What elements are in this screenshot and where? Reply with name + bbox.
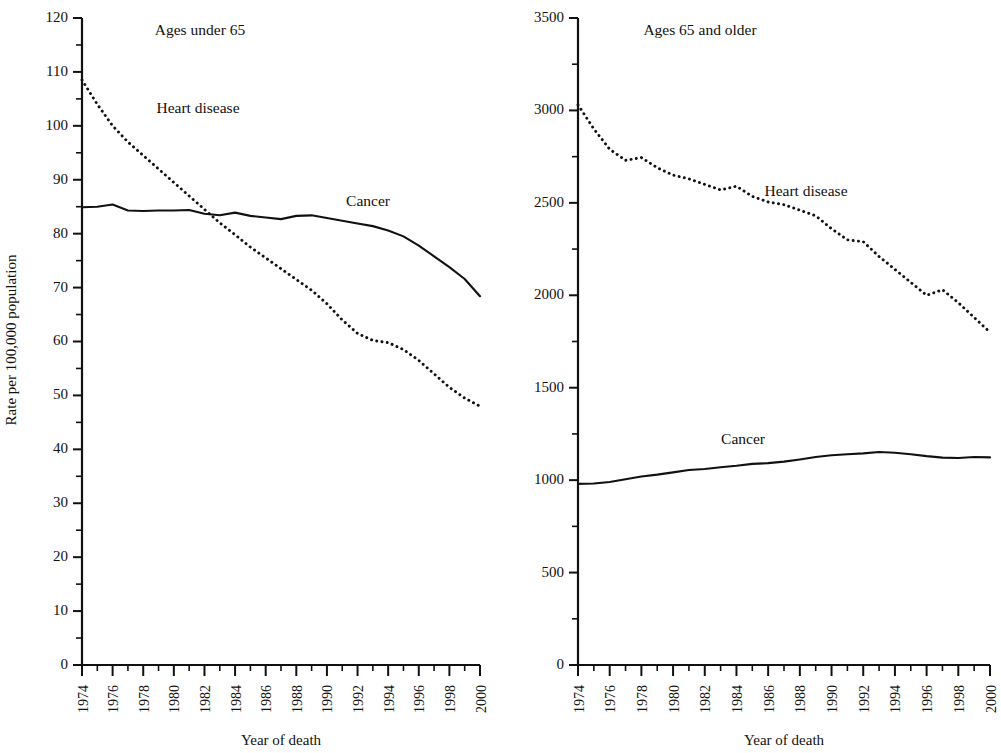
y-tick-label: 1000: [534, 471, 564, 487]
y-tick-label: 3500: [534, 9, 564, 25]
y-tick-label: 0: [61, 656, 69, 672]
series-label-heart-disease: Heart disease: [156, 99, 239, 116]
x-tick-label: 1990: [320, 685, 335, 713]
x-tick-label: 1992: [857, 685, 872, 713]
x-tick-label: 1990: [825, 685, 840, 713]
x-tick-label: 1982: [198, 685, 213, 713]
x-tick-label: 1986: [762, 685, 777, 713]
y-tick-label: 50: [53, 386, 68, 402]
x-tick-label: 1976: [603, 685, 618, 713]
y-tick-label: 2500: [534, 194, 564, 210]
series-line-heart-disease: [82, 80, 480, 406]
x-tick-label: 1988: [793, 685, 808, 713]
y-tick-label: 10: [53, 602, 68, 618]
panel-ages-65-and-older: 0500100015002000250030003500197419761978…: [490, 0, 978, 753]
x-axis-title: Year of death: [744, 732, 825, 748]
panel-title: Ages under 65: [155, 21, 246, 38]
x-tick-label: 1984: [229, 685, 244, 713]
x-tick-label: 1978: [137, 685, 152, 713]
x-tick-label: 1986: [259, 685, 274, 713]
x-tick-label: 1984: [730, 685, 745, 713]
y-tick-label: 40: [53, 440, 68, 456]
x-tick-label: 1994: [888, 685, 903, 713]
y-tick-label: 80: [53, 225, 68, 241]
x-tick-label: 1998: [952, 685, 967, 713]
x-tick-label: 1992: [351, 685, 366, 713]
x-tick-label: 1980: [667, 685, 682, 713]
y-tick-label: 110: [46, 63, 68, 79]
x-tick-label: 2000: [984, 685, 999, 713]
y-tick-label: 3000: [534, 101, 564, 117]
y-tick-label: 60: [53, 332, 68, 348]
y-tick-label: 90: [53, 171, 68, 187]
series-line-cancer: [578, 452, 990, 484]
x-tick-label: 1994: [382, 685, 397, 713]
y-tick-label: 30: [53, 494, 68, 510]
y-tick-label: 0: [557, 656, 565, 672]
x-tick-label: 1978: [635, 685, 650, 713]
chart-ages-under-65: 0102030405060708090100110120197419761978…: [0, 0, 490, 753]
x-tick-label: 1980: [167, 685, 182, 713]
x-tick-label: 1974: [76, 685, 91, 713]
x-tick-label: 1974: [572, 685, 587, 713]
x-tick-label: 1998: [443, 685, 458, 713]
x-tick-label: 2000: [474, 685, 489, 713]
y-tick-label: 2000: [534, 286, 564, 302]
x-tick-label: 1996: [920, 685, 935, 713]
y-tick-label: 1500: [534, 379, 564, 395]
panel-title: Ages 65 and older: [643, 21, 757, 38]
y-tick-label: 20: [53, 548, 68, 564]
y-axis-title: Rate per 100,000 population: [3, 254, 19, 425]
y-tick-label: 100: [46, 117, 69, 133]
series-line-cancer: [82, 205, 480, 297]
x-axis-title: Year of death: [241, 732, 322, 748]
panel-ages-under-65: 0102030405060708090100110120197419761978…: [0, 0, 490, 753]
x-tick-label: 1976: [106, 685, 121, 713]
series-label-cancer: Cancer: [346, 192, 391, 209]
series-label-cancer: Cancer: [721, 430, 766, 447]
x-tick-label: 1996: [412, 685, 427, 713]
x-tick-label: 1988: [290, 685, 305, 713]
chart-ages-65-and-older: 0500100015002000250030003500197419761978…: [490, 0, 1001, 753]
x-tick-label: 1982: [698, 685, 713, 713]
y-tick-label: 70: [53, 279, 68, 295]
y-tick-label: 500: [542, 564, 565, 580]
y-tick-label: 120: [46, 9, 69, 25]
series-label-heart-disease: Heart disease: [764, 182, 847, 199]
series-line-heart-disease: [578, 105, 990, 332]
